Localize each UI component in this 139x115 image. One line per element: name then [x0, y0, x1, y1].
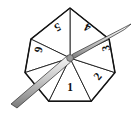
spinner-digit-1: 1: [67, 81, 73, 93]
spinner-hub: [67, 55, 74, 62]
spinner-figure: 1 2 3 4 5 6 7: [0, 0, 139, 115]
spinner-canvas: 1 2 3 4 5 6 7: [0, 0, 139, 115]
